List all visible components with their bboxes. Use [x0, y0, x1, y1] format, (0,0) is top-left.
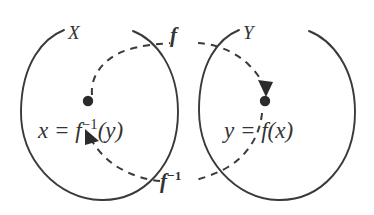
- function-inverse-diagram: X Y f f−1 x = f−1(y) y = f(x): [0, 0, 374, 215]
- element-equation-y-lhs: y = f(x): [224, 118, 293, 143]
- element-equation-y: y = f(x): [224, 117, 293, 142]
- map-label-f-base: f: [170, 23, 177, 47]
- element-equation-x-lhs: x = f: [38, 118, 82, 143]
- set-label-x: X: [68, 23, 80, 42]
- set-label-y: Y: [243, 23, 254, 42]
- element-equation-x-exponent: −1: [82, 116, 98, 132]
- element-equation-x: x = f−1(y): [38, 117, 123, 142]
- map-arc-f-right-segment: [198, 43, 265, 89]
- set-circle-y: [199, 30, 355, 200]
- element-equation-x-rhs: (y): [98, 118, 124, 143]
- map-label-f-inverse: f−1: [160, 169, 182, 192]
- element-dot-y: [260, 96, 270, 106]
- map-label-finv-base: f: [160, 169, 167, 193]
- map-label-f: f: [170, 25, 177, 46]
- diagram-canvas: [0, 0, 374, 215]
- map-arc-finv-left-segment: [91, 139, 160, 181]
- element-dot-x: [83, 96, 93, 106]
- map-label-finv-exponent: −1: [167, 168, 182, 183]
- set-circle-x: [21, 30, 178, 200]
- map-arrow-head-f: [258, 80, 273, 97]
